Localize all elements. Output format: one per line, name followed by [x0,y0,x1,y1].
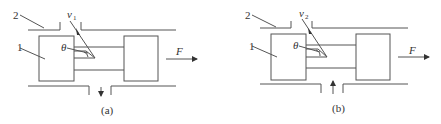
force-label: F [408,44,416,56]
valve-diagram-b: 2 1 θ v 2 F (b) [220,0,441,124]
velocity-label: v [299,7,304,19]
jet-arrowhead [76,28,80,35]
caption-a: (a) [101,104,114,117]
label-2-leader [20,15,44,28]
velocity-label: v [67,8,72,20]
force-label: F [175,45,183,57]
velocity-subscript: 1 [73,14,77,22]
velocity-subscript: 2 [305,13,309,21]
caption-b: (b) [332,102,345,115]
bottom-wall-right [343,84,408,93]
label-1: 1 [249,40,255,52]
label-2: 2 [13,9,19,21]
label-2-leader [252,15,276,27]
valve-diagram-a: 2 1 θ v 1 F (a) [0,0,220,124]
bottom-wall-left [28,86,89,95]
spool-land-right [356,34,390,80]
label-1: 1 [17,41,23,53]
top-wall-right [81,22,176,30]
top-wall-left [28,22,60,30]
theta-label: θ [293,39,299,51]
figure-b: 2 1 θ v 2 F (b) [220,0,440,124]
bottom-wall-right [111,86,176,95]
spool-land-right [124,36,158,81]
figure-a: 2 1 θ v 1 F (a) [0,0,220,124]
theta-label: θ [61,41,67,53]
bottom-wall-left [260,84,321,93]
label-2: 2 [245,9,251,21]
top-wall-right [312,21,408,28]
